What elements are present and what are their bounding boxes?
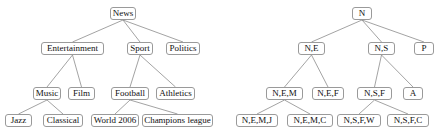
tree-node-jazz[interactable]: Jazz [5, 114, 32, 127]
tree-edge [47, 55, 73, 87]
tree-node-ns[interactable]: N,S [368, 42, 395, 55]
tree-node-football[interactable]: Football [111, 87, 149, 100]
tree-node-news[interactable]: News [110, 7, 136, 20]
tree-node-entertainment[interactable]: Entertainment [41, 42, 104, 55]
tree-edge [285, 55, 312, 87]
tree-edge [123, 20, 140, 42]
tree-edge [115, 100, 130, 114]
tree-node-nem[interactable]: N,E,M [266, 87, 303, 100]
tree-node-champions[interactable]: Champions league [142, 114, 213, 127]
tree-edge [375, 100, 409, 114]
tree-edge [130, 100, 178, 114]
tree-edge [359, 100, 375, 114]
tree-edge [362, 20, 382, 42]
tree-edge [362, 20, 424, 42]
tree-node-nemj[interactable]: N,E,M,J [236, 114, 278, 127]
tree-edge [382, 55, 414, 87]
tree-node-film[interactable]: Film [68, 87, 95, 100]
tree-edge [130, 55, 140, 87]
tree-node-nsfc[interactable]: N,S,F,C [387, 114, 429, 127]
tree-node-a[interactable]: A [403, 87, 423, 100]
tree-node-classical[interactable]: Classical [43, 114, 83, 127]
tree-edge [73, 55, 82, 87]
tree-edge [312, 55, 329, 87]
tree-node-n[interactable]: N [352, 7, 372, 20]
tree-edge [312, 20, 363, 42]
tree-node-politics[interactable]: Politics [166, 42, 200, 55]
tree-edge [140, 55, 176, 87]
tree-node-nsf[interactable]: N,S,F [357, 87, 392, 100]
tree-node-p[interactable]: P [414, 42, 434, 55]
tree-edge [285, 100, 311, 114]
tree-edge [73, 20, 124, 42]
tree-node-ne[interactable]: N,E [298, 42, 325, 55]
tree-node-nsfw[interactable]: N,S,F,W [337, 114, 381, 127]
tree-edge [19, 100, 48, 114]
tree-edge [257, 100, 285, 114]
tree-node-nemc[interactable]: N,E,M,C [287, 114, 333, 127]
tree-node-music[interactable]: Music [33, 87, 61, 100]
tree-node-nef[interactable]: N,E,F [312, 87, 344, 100]
tree-edge [47, 100, 63, 114]
tree-edge [375, 55, 382, 87]
tree-edge [123, 20, 183, 42]
tree-node-athletics[interactable]: Athletics [156, 87, 195, 100]
tree-node-sport[interactable]: Sport [127, 42, 153, 55]
diagram-canvas: NewsEntertainmentSportPoliticsMusicFilmF… [0, 0, 434, 138]
tree-node-world2006[interactable]: World 2006 [91, 114, 139, 127]
